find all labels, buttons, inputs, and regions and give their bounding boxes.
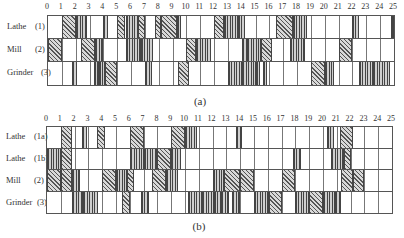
machine-row	[47, 170, 392, 192]
operation-block	[323, 192, 335, 214]
time-tick: 24	[373, 115, 381, 123]
time-tick: 3	[85, 115, 89, 123]
operation-block	[47, 170, 61, 191]
operation-block	[102, 170, 116, 191]
operation-block	[293, 149, 301, 170]
time-gridline	[213, 149, 214, 170]
operation-block	[72, 170, 80, 191]
operation-block	[269, 192, 281, 214]
operation-block	[236, 127, 242, 148]
time-tick: 10	[180, 115, 188, 123]
time-gridline	[351, 192, 352, 214]
time-gridline	[185, 149, 186, 170]
time-gridline	[254, 149, 255, 170]
time-gridline	[116, 127, 117, 148]
operation-block	[232, 192, 240, 214]
time-gridline	[295, 127, 296, 148]
time-gridline	[323, 149, 324, 170]
time-gridline	[378, 192, 379, 214]
time-gridline	[282, 127, 283, 148]
time-tick: 19	[304, 115, 312, 123]
operation-block	[116, 170, 127, 191]
time-tick: 25	[387, 115, 395, 123]
time-gridline	[144, 170, 145, 191]
operation-block	[157, 149, 171, 170]
machine-name: Grinder	[6, 197, 32, 207]
time-tick: 16	[263, 115, 271, 123]
time-tick: 1	[58, 115, 62, 123]
time-gridline	[254, 127, 255, 148]
time-gridline	[364, 149, 365, 170]
time-gridline	[185, 170, 186, 191]
operation-block	[341, 170, 353, 191]
time-tick: 2	[72, 115, 76, 123]
operation-block	[335, 192, 341, 214]
operation-block	[224, 170, 241, 191]
time-tick: 7	[141, 115, 145, 123]
operation-block	[327, 127, 334, 148]
operation-block	[141, 192, 149, 214]
time-gridline	[226, 149, 227, 170]
time-gridline	[351, 149, 352, 170]
operation-block	[72, 192, 83, 214]
row-label-lathe-1a: Lathe (1a)	[6, 131, 25, 141]
machine-row	[47, 149, 392, 171]
row-label-lathe-1b: Lathe (1b)	[6, 153, 25, 163]
operation-block	[282, 170, 296, 191]
time-gridline	[364, 170, 365, 191]
time-gridline	[102, 149, 103, 170]
time-gridline	[282, 192, 283, 214]
time-gridline	[364, 192, 365, 214]
operation-block	[213, 170, 224, 191]
time-gridline	[268, 170, 269, 191]
time-gridline	[323, 170, 324, 191]
operation-block	[309, 192, 323, 214]
operation-block	[144, 149, 158, 170]
operation-block	[122, 192, 130, 214]
time-tick: 4	[99, 115, 103, 123]
time-gridline	[323, 127, 324, 148]
operation-block	[61, 149, 72, 170]
machine-id: (2)	[34, 175, 44, 185]
time-gridline	[88, 149, 89, 170]
time-tick: 6	[127, 115, 131, 123]
time-gridline	[88, 170, 89, 191]
time-gridline	[240, 192, 241, 214]
time-tick: 18	[290, 115, 298, 123]
operation-block	[61, 170, 72, 191]
time-tick: 13	[221, 115, 229, 123]
time-tick: 9	[168, 115, 172, 123]
operation-block	[188, 192, 202, 214]
time-gridline	[254, 170, 255, 191]
machine-row	[47, 192, 392, 214]
time-gridline	[378, 149, 379, 170]
time-gridline	[240, 149, 241, 170]
schedule-grid-b	[46, 126, 393, 214]
operation-block	[221, 192, 229, 214]
operation-block	[166, 170, 178, 191]
time-gridline	[75, 149, 76, 170]
operation-block	[130, 149, 144, 170]
operation-block	[331, 149, 343, 170]
time-tick: 12	[208, 115, 216, 123]
time-gridline	[157, 192, 158, 214]
operation-block	[185, 127, 197, 148]
time-tick: 17	[277, 115, 285, 123]
operation-block	[127, 170, 134, 191]
machine-name: Mill	[6, 175, 21, 185]
time-gridline	[309, 149, 310, 170]
time-gridline	[364, 127, 365, 148]
operation-block	[214, 192, 221, 214]
time-gridline	[378, 127, 379, 148]
time-gridline	[199, 127, 200, 148]
time-tick: 8	[154, 115, 158, 123]
time-gridline	[309, 127, 310, 148]
time-gridline	[185, 192, 186, 214]
operation-block	[202, 192, 214, 214]
time-tick: 5	[113, 115, 117, 123]
time-gridline	[157, 127, 158, 148]
operation-block	[61, 127, 72, 148]
time-gridline	[337, 170, 338, 191]
time-gridline	[199, 170, 200, 191]
time-gridline	[213, 127, 214, 148]
